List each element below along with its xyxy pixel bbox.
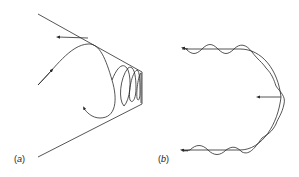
label-close-paren: ) <box>166 154 169 164</box>
panel-a <box>38 14 142 157</box>
arrow-outgoing <box>58 37 88 38</box>
panel-label-a: (a) <box>14 154 25 164</box>
particle-trajectory <box>38 44 115 118</box>
label-close-paren: ) <box>22 154 25 164</box>
panel-label-b: (b) <box>158 154 169 164</box>
gyration-wave <box>184 45 284 155</box>
diagram-canvas <box>0 0 299 177</box>
arrow-incoming <box>38 70 52 85</box>
panel-b <box>182 45 284 155</box>
field-boundary-upper <box>38 14 142 72</box>
helix-compression <box>112 66 141 106</box>
field-boundary-lower <box>38 104 142 157</box>
